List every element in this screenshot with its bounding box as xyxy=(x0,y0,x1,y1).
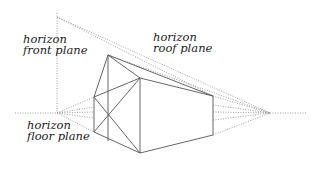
roof-plane-label: horizon roof plane xyxy=(153,32,212,54)
right-guide-4 xyxy=(213,112,270,113)
floor-guide-1 xyxy=(57,97,94,113)
roof-ridge xyxy=(108,55,213,96)
floor-plane-label-line2: floor plane xyxy=(27,131,90,142)
perspective-diagram xyxy=(0,0,321,173)
floor-plane-label: horizon floor plane xyxy=(27,120,90,142)
building-outline xyxy=(94,55,213,153)
right-guide-1 xyxy=(213,96,270,113)
right-guide-3 xyxy=(213,105,270,113)
left-face-top-edge xyxy=(94,78,140,97)
right-guide-2 xyxy=(213,113,270,135)
front-plane-label-line2: front plane xyxy=(23,45,87,56)
floor-guide-3 xyxy=(57,107,94,113)
roof-plane-label-line2: roof plane xyxy=(153,43,212,54)
front-plane-label: horizon front plane xyxy=(23,34,87,56)
right-guide-5 xyxy=(213,113,270,120)
building-silhouette xyxy=(94,55,213,153)
